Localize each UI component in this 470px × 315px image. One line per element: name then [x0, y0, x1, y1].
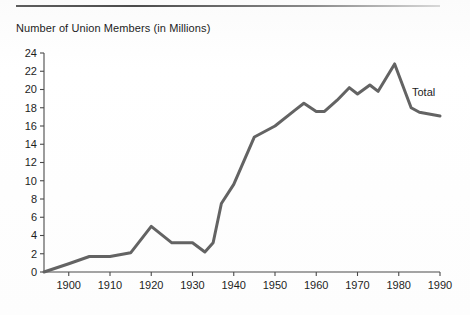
- x-tick-label: 1950: [263, 279, 287, 291]
- y-tick-label: 2: [31, 248, 37, 260]
- y-tick-label: 16: [25, 120, 37, 132]
- y-tick-label: 6: [31, 211, 37, 223]
- y-tick-label: 10: [25, 175, 37, 187]
- y-axis: 024681012141618202224: [25, 47, 44, 278]
- y-tick-label: 18: [25, 102, 37, 114]
- line-chart-plot: 024681012141618202224 190019101920193019…: [0, 0, 470, 315]
- y-tick-label: 4: [31, 229, 37, 241]
- y-tick-label: 22: [25, 65, 37, 77]
- x-axis: 1900191019201930194019501960197019801990: [44, 272, 452, 291]
- data-series-group: [44, 64, 440, 272]
- x-tick-label: 1970: [345, 279, 369, 291]
- series-line-total: [44, 64, 440, 272]
- x-tick-label: 1960: [304, 279, 328, 291]
- y-tick-label: 14: [25, 138, 37, 150]
- y-tick-label: 24: [25, 47, 37, 59]
- y-tick-label: 0: [31, 266, 37, 278]
- x-tick-label: 1930: [180, 279, 204, 291]
- y-tick-label: 20: [25, 83, 37, 95]
- series-label-total: Total: [412, 86, 435, 98]
- x-tick-label: 1910: [98, 279, 122, 291]
- x-tick-label: 1980: [387, 279, 411, 291]
- series-annotation-group: Total: [412, 86, 435, 98]
- chart-figure: Number of Union Members (in Millions) 02…: [0, 0, 470, 315]
- y-tick-label: 12: [25, 156, 37, 168]
- y-tick-label: 8: [31, 193, 37, 205]
- x-tick-label: 1900: [57, 279, 81, 291]
- x-tick-label: 1940: [222, 279, 246, 291]
- x-tick-label: 1990: [428, 279, 452, 291]
- x-tick-label: 1920: [139, 279, 163, 291]
